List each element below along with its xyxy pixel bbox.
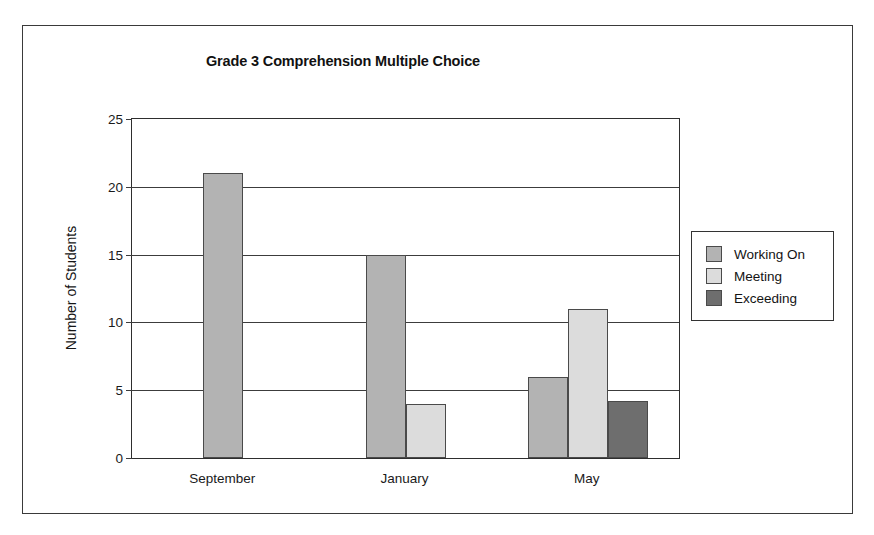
legend-item-meeting[interactable]: Meeting (706, 265, 823, 287)
bar-may-meeting (568, 309, 608, 458)
legend-swatch-icon-meeting (706, 268, 722, 284)
figure-frame: Grade 3 Comprehension Multiple Choice Nu… (22, 25, 853, 514)
legend-label: Meeting (734, 269, 782, 284)
bar-may-working-on (528, 377, 568, 458)
y-tick-mark-10 (126, 322, 132, 323)
x-tick-label-september: September (189, 471, 255, 486)
bar-may-exceeding (608, 401, 648, 458)
y-axis-title-label: Number of Students (63, 225, 79, 350)
y-axis-title: Number of Students (61, 118, 81, 457)
y-tick-label-10: 10 (108, 315, 123, 330)
y-tick-label-20: 20 (108, 179, 123, 194)
y-tick-label-0: 0 (115, 451, 123, 466)
y-tick-label-5: 5 (115, 383, 123, 398)
bar-september-working-on (203, 173, 243, 458)
legend-label: Working On (734, 247, 805, 262)
y-tick-mark-20 (126, 187, 132, 188)
y-tick-mark-15 (126, 255, 132, 256)
legend-swatch-icon-exceeding (706, 290, 722, 306)
legend-item-exceeding[interactable]: Exceeding (706, 287, 823, 309)
x-tick-label-january: January (380, 471, 428, 486)
chart-title: Grade 3 Comprehension Multiple Choice (23, 53, 663, 69)
chart-legend: Working OnMeetingExceeding (691, 231, 834, 321)
bar-january-working-on (366, 255, 406, 458)
legend-swatch-icon-working-on (706, 246, 722, 262)
y-tick-mark-0 (126, 458, 132, 459)
bar-january-meeting (406, 404, 446, 458)
y-tick-label-25: 25 (108, 112, 123, 127)
plot-area: 0510152025 (131, 118, 680, 459)
legend-item-working-on[interactable]: Working On (706, 243, 823, 265)
x-tick-label-may: May (574, 471, 600, 486)
y-tick-mark-5 (126, 390, 132, 391)
y-tick-mark-25 (126, 119, 132, 120)
legend-label: Exceeding (734, 291, 797, 306)
y-tick-label-15: 15 (108, 247, 123, 262)
